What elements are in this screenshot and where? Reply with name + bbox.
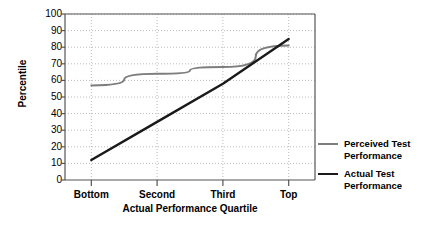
legend-item-label: Perceived Test Performance — [344, 138, 410, 161]
line-chart: Percentile 1009080706050403020100 Bottom… — [0, 0, 431, 225]
legend-line-swatch-icon — [318, 173, 338, 175]
series-line-actual — [91, 39, 288, 160]
chart-legend: Perceived Test PerformanceActual Test Pe… — [318, 138, 428, 198]
legend-item[interactable]: Actual Test Performance — [318, 168, 428, 191]
legend-item-label: Actual Test Performance — [344, 168, 402, 191]
legend-line-swatch-icon — [318, 143, 338, 145]
legend-item[interactable]: Perceived Test Performance — [318, 138, 428, 161]
series-line-perceived — [91, 46, 288, 86]
